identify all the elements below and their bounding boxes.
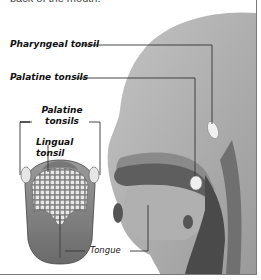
- tonsils-diagram: back of the mouth. Pharyngeal tonsil Pal…: [0, 0, 261, 280]
- label-palatine-tonsils-head: Palatine tonsils: [10, 72, 88, 82]
- palatine-tonsil-right: [89, 167, 99, 183]
- label-lingual-tonsil: Lingual tonsil: [36, 137, 73, 159]
- label-palatine-line1: Palatine: [34, 105, 90, 116]
- label-lingual-line1: Lingual: [36, 137, 73, 148]
- label-palatine-line2: tonsils: [34, 116, 90, 127]
- label-tongue: Tongue: [90, 245, 121, 255]
- caption-text: back of the mouth.: [10, 0, 101, 4]
- label-pharyngeal-tonsil: Pharyngeal tonsil: [10, 39, 99, 49]
- epiglottis: [113, 203, 123, 223]
- palatine-tonsil-head: [190, 176, 202, 190]
- tongue-illustration: [21, 160, 99, 264]
- label-palatine-tonsils-tongue: Palatine tonsils: [34, 105, 90, 127]
- hyoid: [183, 215, 193, 229]
- label-lingual-line2: tonsil: [36, 148, 73, 159]
- palatine-tonsil-left: [21, 167, 31, 183]
